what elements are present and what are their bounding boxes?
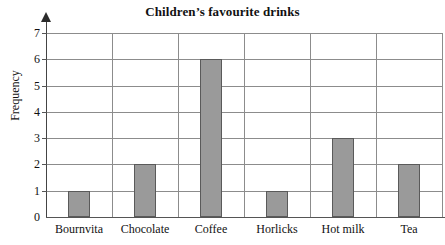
y-tick-mark [42,138,47,139]
gridline-vertical [376,33,377,217]
x-label-hot-milk: Hot milk [310,222,376,236]
y-tick-label: 5 [26,80,40,92]
y-tick-label: 1 [26,185,40,197]
y-axis-arrow-icon [41,12,51,22]
gridline-vertical [442,33,443,217]
x-label-bournvita: Bournvita [46,222,112,236]
bar-coffee [200,59,222,217]
x-label-horlicks: Horlicks [244,222,310,236]
y-tick-label: 3 [26,132,40,144]
y-tick-mark [42,59,47,60]
y-tick-mark [42,33,47,34]
y-tick-label: 2 [26,158,40,170]
gridline-vertical [310,33,311,217]
bar-bournvita [68,191,90,217]
chart-title: Children’s favourite drinks [0,4,445,20]
bar-horlicks [266,191,288,217]
bar-chocolate [134,164,156,217]
y-tick-label: 7 [26,27,40,39]
bar-hot-milk [332,138,354,217]
y-tick-label: 0 [26,211,40,223]
plot-area [46,33,442,217]
y-tick-label: 6 [26,53,40,65]
y-tick-mark [42,164,47,165]
y-tick-mark [42,191,47,192]
gridline-vertical [178,33,179,217]
x-axis-line [46,217,445,218]
y-tick-label: 4 [26,106,40,118]
bar-tea [398,164,420,217]
x-label-chocolate: Chocolate [112,222,178,236]
bar-chart: Children’s favourite drinks Frequency 01… [0,0,445,245]
x-label-tea: Tea [376,222,442,236]
y-axis-tick-labels: 01234567 [20,0,40,245]
gridline-vertical [112,33,113,217]
y-tick-mark [42,86,47,87]
gridline-vertical [244,33,245,217]
x-label-coffee: Coffee [178,222,244,236]
y-tick-mark [42,112,47,113]
